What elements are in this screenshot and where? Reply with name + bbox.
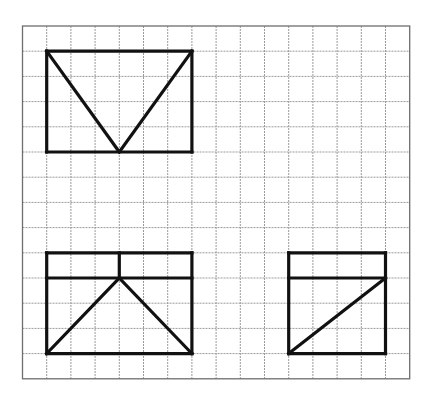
shape-edge (119, 51, 192, 152)
shape-edge (47, 278, 120, 354)
grid-lines (23, 26, 410, 379)
grid-diagram (0, 0, 427, 393)
shape-edge (119, 278, 192, 354)
